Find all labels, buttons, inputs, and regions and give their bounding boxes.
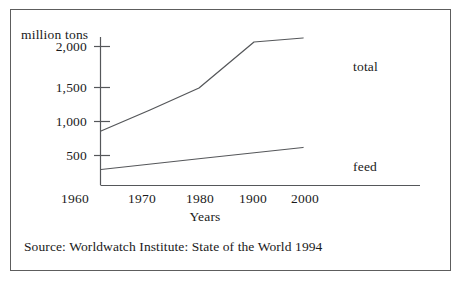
x-tick-label-1960: 1960 xyxy=(43,191,107,207)
series-label-feed: feed xyxy=(353,159,377,175)
figure-container: million tons 2,000 1,500 1,000 500 1960 … xyxy=(0,0,462,283)
x-axis-title: Years xyxy=(145,209,265,225)
series-line-feed xyxy=(101,148,303,170)
x-tick-label-2000: 2000 xyxy=(273,191,337,207)
series-line-total xyxy=(101,38,303,131)
source-note: Source: Worldwatch Institute: State of t… xyxy=(24,239,322,255)
x-tick-label-1970: 1970 xyxy=(110,191,174,207)
y-tick-label-500: 500 xyxy=(27,148,87,164)
y-tick-label-2000: 2,000 xyxy=(27,39,87,55)
y-tick-label-1000: 1,000 xyxy=(27,114,87,130)
series-label-total: total xyxy=(353,59,378,75)
y-tick-label-1500: 1,500 xyxy=(27,80,87,96)
